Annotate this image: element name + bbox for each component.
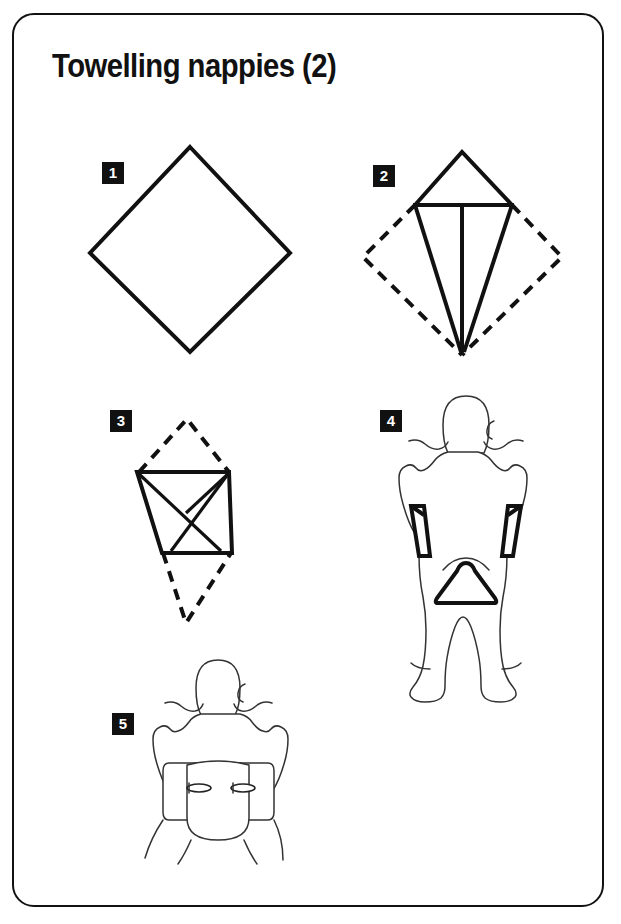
baby-right-leg [274, 820, 283, 860]
safety-pin-right-shape [231, 784, 255, 792]
baby-head [196, 660, 240, 715]
baby-right-thigh-crease [244, 840, 257, 864]
baby-left-leg [145, 820, 163, 858]
baby-left-thigh-crease [178, 840, 191, 864]
step-5-figure [0, 0, 621, 924]
safety-pin-left-shape [187, 784, 211, 792]
baby-body-outline-step5 [145, 660, 288, 864]
safety-pin-left [187, 783, 211, 793]
baby-right-arm-crease [234, 702, 272, 711]
nappy-front-flap [187, 761, 249, 840]
safety-pin-right [231, 783, 255, 793]
instruction-sheet: Towelling nappies (2) 1 2 3 4 [0, 0, 621, 924]
